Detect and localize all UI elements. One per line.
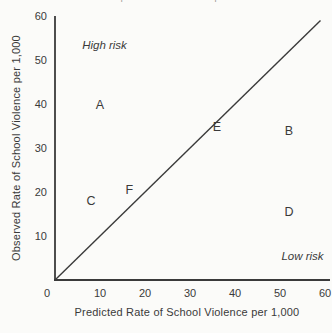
chart-canvas: 0102030405060102030405060ABCDEFHigh risk… [0, 0, 332, 333]
y-tick-label-20: 20 [35, 186, 47, 198]
x-tick-label-60: 60 [319, 287, 331, 299]
x-tick-label-0: 0 [44, 287, 50, 299]
point-label-A: A [96, 98, 105, 112]
scatter-figure: of predictions and consequences 01020304… [0, 0, 332, 333]
y-axis-title: Observed Rate of School Violence per 1,0… [10, 35, 22, 261]
y-tick-label-30: 30 [35, 142, 47, 154]
y-tick-label-60: 60 [35, 10, 47, 22]
point-label-F: F [125, 183, 133, 197]
point-label-B: B [285, 124, 293, 138]
y-tick-label-50: 50 [35, 54, 47, 66]
x-tick-label-50: 50 [274, 287, 286, 299]
x-tick-label-20: 20 [139, 287, 151, 299]
x-tick-label-30: 30 [184, 287, 196, 299]
x-tick-label-40: 40 [229, 287, 241, 299]
annotation-low-risk: Low risk [281, 250, 324, 262]
y-tick-label-10: 10 [35, 230, 47, 242]
x-tick-label-10: 10 [94, 287, 106, 299]
point-label-E: E [213, 120, 221, 134]
reference-line [55, 20, 321, 280]
point-label-C: C [86, 194, 95, 208]
y-tick-label-40: 40 [35, 98, 47, 110]
x-axis-title: Predicted Rate of School Violence per 1,… [75, 306, 300, 318]
point-label-D: D [284, 205, 293, 219]
annotation-high-risk: High risk [82, 39, 128, 51]
